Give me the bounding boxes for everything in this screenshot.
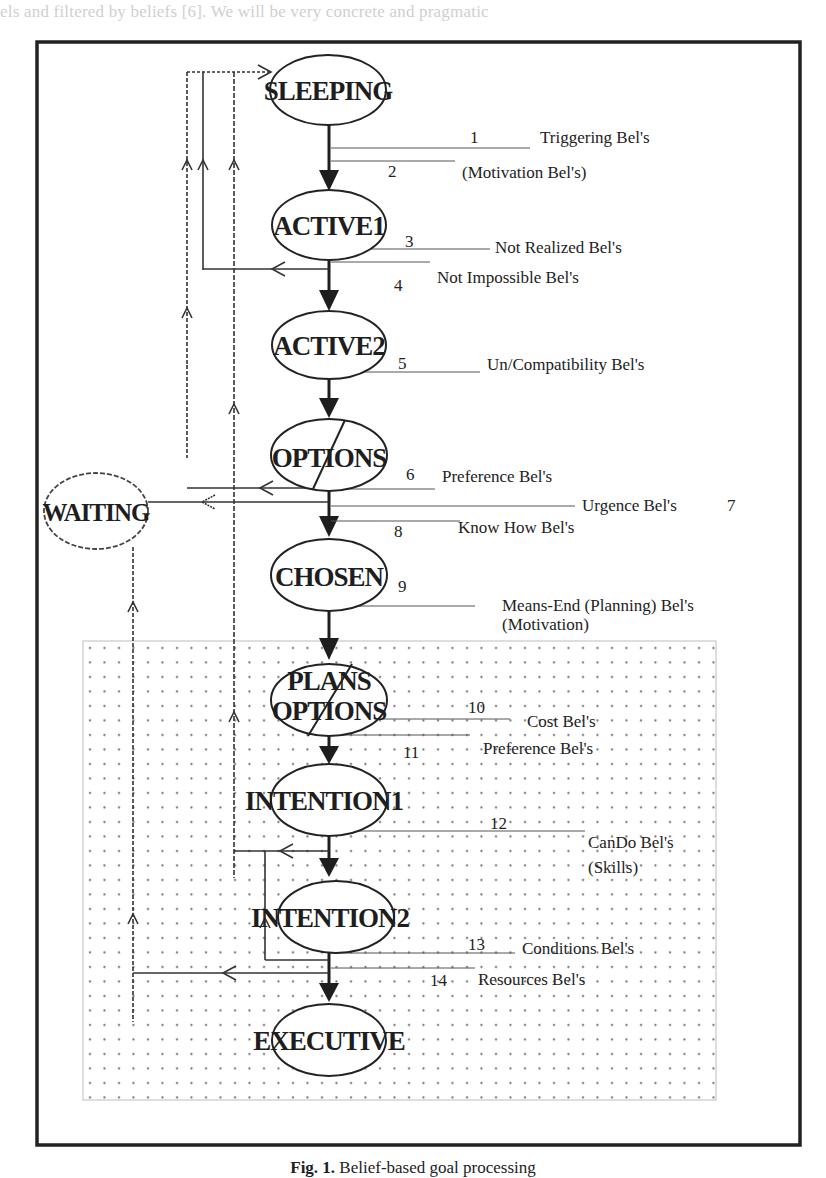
filter-number: 4 — [394, 276, 403, 295]
filter-label: CanDo Bel's — [588, 833, 674, 852]
filter-number: 2 — [388, 162, 397, 181]
filter-label-2: (Motivation) — [502, 615, 589, 634]
filter-label: Means-End (Planning) Bel's — [502, 596, 694, 615]
filter-label: Triggering Bel's — [540, 128, 650, 147]
filter-label: Preference Bel's — [483, 739, 593, 758]
caption-prefix: Fig. 1. — [290, 1158, 335, 1177]
state-label: OPTIONS — [272, 443, 387, 473]
filter-number: 7 — [727, 496, 736, 515]
state-label: SLEEPING — [264, 76, 394, 106]
filter-number: 3 — [405, 232, 414, 251]
filter-label: (Motivation Bel's) — [462, 163, 586, 182]
filter-label: Conditions Bel's — [522, 939, 634, 958]
filter-number: 1 — [470, 128, 479, 147]
filter-number: 14 — [430, 971, 448, 990]
state-active1: ACTIVE1 — [272, 190, 386, 260]
filter-label: Know How Bel's — [458, 518, 574, 537]
state-sleeping: SLEEPING — [264, 55, 394, 125]
filter-number: 10 — [468, 698, 485, 717]
state-label: INTENTION2 — [251, 903, 410, 933]
state-label: INTENTION1 — [245, 786, 404, 816]
filter-number: 11 — [403, 743, 419, 762]
state-label-line1: PLANS — [287, 666, 371, 696]
filter-number: 6 — [406, 465, 415, 484]
figure-caption: Fig. 1. Belief-based goal processing — [0, 1158, 826, 1178]
state-label-line2: OPTIONS — [272, 696, 387, 726]
state-label: EXECUTIVE — [253, 1026, 405, 1056]
state-label: ACTIVE2 — [273, 331, 385, 361]
filter-label: Resources Bel's — [478, 970, 585, 989]
state-plans-options: PLANS OPTIONS — [271, 664, 387, 736]
filter-label: Urgence Bel's — [582, 496, 677, 515]
filter-label-2: (Skills) — [588, 858, 638, 877]
state-label: WAITING — [43, 499, 150, 526]
state-active2: ACTIVE2 — [272, 311, 386, 379]
filter-number: 13 — [468, 935, 485, 954]
state-label: CHOSEN — [275, 562, 385, 592]
caption-text: Belief-based goal processing — [339, 1158, 535, 1177]
filter-number: 9 — [398, 577, 407, 596]
filter-label: Not Impossible Bel's — [437, 268, 579, 287]
state-waiting: WAITING — [43, 473, 150, 549]
state-label: ACTIVE1 — [273, 211, 385, 241]
filter-label: Not Realized Bel's — [495, 238, 622, 257]
state-options: OPTIONS — [271, 419, 387, 491]
filter-number: 5 — [398, 354, 407, 373]
state-chosen: CHOSEN — [271, 539, 387, 611]
filter-number: 8 — [394, 522, 403, 541]
filter-label: Preference Bel's — [442, 467, 552, 486]
filter-label: Cost Bel's — [527, 712, 596, 731]
filter-label: Un/Compatibility Bel's — [487, 355, 644, 374]
goal-processing-diagram: SLEEPING ACTIVE1 ACTIVE2 OPTIONS CHOSEN … — [0, 0, 826, 1178]
filter-number: 12 — [490, 814, 507, 833]
